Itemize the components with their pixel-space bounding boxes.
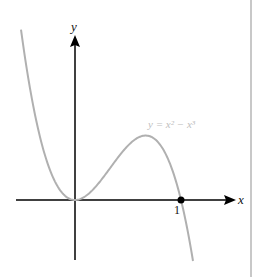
x-axis-label: x <box>238 192 244 208</box>
function-curve <box>21 30 193 261</box>
tick-label-one: 1 <box>174 203 180 218</box>
plot-canvas <box>0 0 257 277</box>
y-axis-label: y <box>71 19 77 35</box>
right-border <box>250 0 252 277</box>
equation-label: y = x² − x³ <box>148 118 195 130</box>
